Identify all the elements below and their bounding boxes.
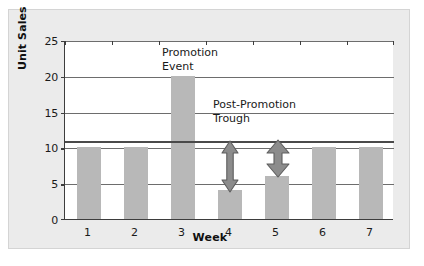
- annotation-promotion-event: Promotion Event: [162, 46, 218, 74]
- y-tick-label-5: 5: [28, 178, 58, 191]
- y-tick-mark-20: [61, 77, 65, 78]
- arrow-week-5-drop: [265, 139, 291, 179]
- y-tick-mark-15: [61, 113, 65, 114]
- arrow-week-4-drop: [220, 140, 240, 193]
- gridline-25: [65, 41, 394, 42]
- x-tick-mark-5: [300, 41, 301, 45]
- annotation-promotion-line2: Event: [162, 60, 218, 74]
- y-tick-label-10: 10: [28, 142, 58, 155]
- x-tick-mark-3: [206, 41, 207, 45]
- x-tick-mark-4: [253, 41, 254, 45]
- bar-week-3: [171, 76, 195, 219]
- bar-week-4: [218, 190, 242, 219]
- x-axis-title: Week: [9, 231, 411, 244]
- bar-week-1: [77, 147, 101, 219]
- y-tick-mark-10: [61, 148, 65, 149]
- bar-week-5: [265, 176, 289, 219]
- y-tick-mark-0: [61, 219, 65, 220]
- y-tick-mark-5: [61, 184, 65, 185]
- plot-area: Promotion Event Post-Promotion Trough: [64, 41, 393, 220]
- annotation-trough-line2: Trough: [213, 112, 296, 126]
- y-tick-label-15: 15: [28, 106, 58, 119]
- bar-week-6: [312, 147, 336, 219]
- x-tick-mark-2: [159, 41, 160, 45]
- y-tick-label-20: 20: [28, 70, 58, 83]
- y-tick-label-0: 0: [28, 214, 58, 227]
- x-tick-mark-7: [393, 41, 394, 45]
- chart-card: Unit Sales 0 5 10 15 20 25: [8, 9, 410, 249]
- x-tick-mark-0: [65, 41, 66, 45]
- annotation-post-promotion-trough: Post-Promotion Trough: [213, 98, 296, 126]
- x-tick-mark-6: [347, 41, 348, 45]
- bar-week-7: [359, 147, 383, 219]
- bar-week-2: [124, 147, 148, 219]
- gridline-20: [65, 77, 394, 78]
- y-tick-label-25: 25: [28, 35, 58, 48]
- x-tick-mark-1: [112, 41, 113, 45]
- annotation-promotion-line1: Promotion: [162, 46, 218, 60]
- annotation-trough-line1: Post-Promotion: [213, 98, 296, 112]
